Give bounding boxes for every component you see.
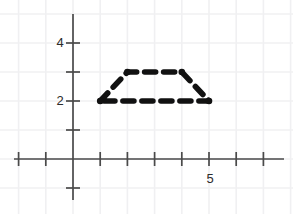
data-point-vertex [206,98,213,105]
x-axis-tick-label-5: 5 [198,172,222,185]
y-axis-tick-label-2: 2 [48,94,72,107]
data-point-vertex [179,69,186,76]
y-axis-tick-label-4: 4 [48,36,72,49]
data-point-vertex [124,69,131,76]
grid-lines [0,0,293,214]
data-point-vertex [97,98,104,105]
chart-figure: 4 2 5 [0,0,293,214]
coordinate-plane-plot [0,0,293,214]
